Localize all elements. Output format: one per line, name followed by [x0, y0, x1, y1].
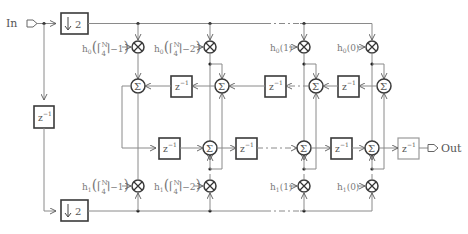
top-downsampler: 2 — [61, 13, 88, 34]
coef-top-4: h0(0) — [337, 43, 359, 54]
input-port-icon — [27, 20, 37, 27]
svg-text:Σ: Σ — [218, 81, 225, 92]
adder-top-4: Σ — [377, 79, 391, 93]
delay-bottom-3: z−1 — [331, 138, 352, 159]
coef-top-2: h0(⌈N4⌉−2) — [154, 39, 201, 58]
svg-text:Σ: Σ — [368, 143, 375, 154]
bottom-downsampler: 2 — [61, 200, 88, 221]
coef-top-3: h0(1) — [270, 43, 292, 54]
svg-text:2: 2 — [75, 19, 81, 30]
coef-bottom-1: h1(⌈N4⌉−1) — [82, 177, 129, 196]
multiplier-bottom-3 — [298, 180, 310, 192]
adder-bottom-1: Σ — [203, 141, 217, 155]
coef-bottom-3: h1(1) — [270, 182, 292, 193]
adder-bottom-2: Σ — [297, 141, 311, 155]
svg-text:−1: −1 — [245, 141, 254, 148]
delay-top-1: z−1 — [171, 76, 192, 97]
svg-text:Σ: Σ — [206, 143, 213, 154]
svg-text:−1: −1 — [347, 79, 356, 86]
multiplier-top-4 — [366, 41, 378, 53]
coef-bottom-4: h1(0) — [337, 182, 359, 193]
multiplier-top-2 — [204, 41, 216, 53]
svg-text:2: 2 — [75, 206, 81, 217]
multiplier-bottom-4 — [366, 180, 378, 192]
adder-top-1: Σ — [131, 79, 145, 93]
coef-bottom-2: h1(⌈N4⌉−2) — [154, 177, 201, 196]
delay-top-2: z−1 — [265, 76, 286, 97]
input-delay-block: z −1 — [34, 106, 54, 128]
adder-bottom-3: Σ — [365, 141, 379, 155]
svg-text:−1: −1 — [43, 110, 52, 117]
delay-bottom-1: z−1 — [159, 138, 180, 159]
polyphase-filter-diagram: In 2 z −1 2 h0(⌈N4⌉−1) — [0, 0, 468, 234]
delay-top-3: z−1 — [338, 76, 359, 97]
svg-text:Σ: Σ — [312, 81, 319, 92]
coef-top-1: h0(⌈N4⌉−1) — [82, 39, 129, 58]
svg-text:−1: −1 — [180, 79, 189, 86]
output-port-icon — [428, 145, 438, 152]
svg-text:−1: −1 — [168, 141, 177, 148]
svg-text:Σ: Σ — [380, 81, 387, 92]
svg-text:Σ: Σ — [300, 143, 307, 154]
svg-text:−1: −1 — [340, 141, 349, 148]
multiplier-top-1 — [132, 41, 144, 53]
input-label: In — [6, 17, 17, 30]
svg-text:Σ: Σ — [134, 81, 141, 92]
adder-top-3: Σ — [309, 79, 323, 93]
svg-text:−1: −1 — [407, 141, 416, 148]
svg-text:−1: −1 — [274, 79, 283, 86]
multiplier-bottom-2 — [204, 180, 216, 192]
multiplier-bottom-1 — [132, 180, 144, 192]
delay-output: z−1 — [398, 138, 419, 159]
multiplier-top-3 — [298, 41, 310, 53]
delay-bottom-2: z−1 — [236, 138, 257, 159]
adder-top-2: Σ — [215, 79, 229, 93]
output-label: Out — [441, 142, 462, 155]
